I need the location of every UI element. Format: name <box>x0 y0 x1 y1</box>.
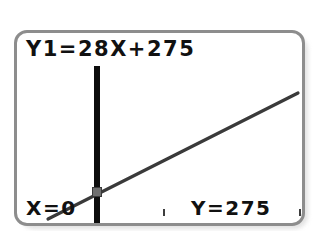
calculator-screen: Y1=28X+275 X=0 Y=275 <box>14 30 305 226</box>
screen-inner-area: Y1=28X+275 X=0 Y=275 <box>17 33 302 223</box>
axis-tick-mark-mid <box>163 209 165 216</box>
trace-cursor[interactable] <box>92 187 102 197</box>
y-value-readout: Y=275 <box>191 198 272 218</box>
x-value-readout: X=0 <box>26 198 77 218</box>
screenshot-root: Y1=28X+275 X=0 Y=275 <box>0 0 323 231</box>
axis-tick-mark-right <box>299 209 301 216</box>
